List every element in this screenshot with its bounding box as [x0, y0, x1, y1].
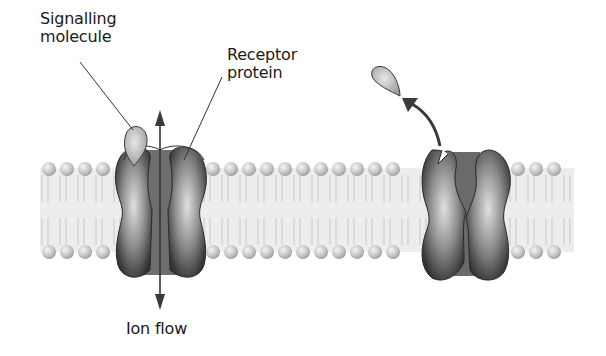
receptor-protein-label-line1: Receptor [227, 46, 297, 64]
lipid-head [529, 245, 543, 259]
lipid-head [224, 245, 238, 259]
membrane-receptor-diagram [0, 0, 606, 356]
lipid-head [314, 245, 328, 259]
lipid-head [386, 162, 400, 176]
receptor-protein-label-line2: protein [227, 64, 297, 82]
lipid-head [206, 162, 220, 176]
lipid-head [78, 162, 92, 176]
ion-flow-label: Ion flow [126, 320, 187, 338]
lipid-head [350, 162, 364, 176]
lipid-head [296, 162, 310, 176]
release-arrow [402, 98, 440, 146]
signalling-molecule-label-line1: Signalling [40, 10, 116, 28]
receptor-protein-leader-line [184, 77, 222, 160]
lipid-head [224, 162, 238, 176]
signalling-molecule-label: Signalling molecule [40, 10, 116, 46]
lipid-head [511, 245, 525, 259]
receptor-protein-label: Receptor protein [227, 46, 297, 82]
lipid-head [206, 245, 220, 259]
lipid-head [314, 162, 328, 176]
lipid-head [368, 162, 382, 176]
lipid-head [386, 245, 400, 259]
lipid-head [42, 162, 56, 176]
lipid-head [96, 162, 110, 176]
lipid-head [296, 245, 310, 259]
lipid-head [278, 162, 292, 176]
lipid-head [529, 162, 543, 176]
lipid-head [547, 245, 561, 259]
lipid-head [511, 162, 525, 176]
lipid-head [42, 245, 56, 259]
lipid-head [332, 245, 346, 259]
signalling-molecule-released [372, 66, 400, 96]
lipid-head [547, 162, 561, 176]
lipid-head [242, 162, 256, 176]
lipid-head [260, 245, 274, 259]
lipid-head [332, 162, 346, 176]
lipid-head [96, 245, 110, 259]
signalling-molecule-leader-line [80, 62, 133, 130]
lipid-head [260, 162, 274, 176]
lipid-head [60, 162, 74, 176]
lipid-head [242, 245, 256, 259]
lipid-head [368, 245, 382, 259]
lipid-head [60, 245, 74, 259]
lipid-head [78, 245, 92, 259]
receptor-channel-closed [422, 150, 510, 280]
signalling-molecule-label-line2: molecule [40, 28, 116, 46]
lipid-head [350, 245, 364, 259]
lipid-head [278, 245, 292, 259]
receptor-channel-open [116, 146, 207, 277]
